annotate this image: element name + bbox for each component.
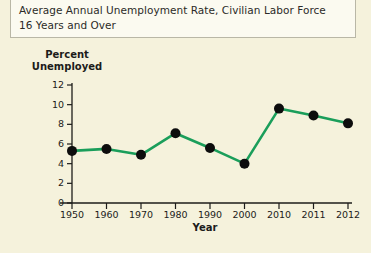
- data-point-marker: [102, 144, 112, 154]
- chart-title-box: Average Annual Unemployment Rate, Civili…: [10, 0, 356, 38]
- line-chart: Percent Unemployed 121086420 19501960197…: [0, 38, 371, 253]
- data-point-marker: [171, 128, 181, 138]
- x-axis-title: Year: [60, 222, 350, 233]
- y-tick-label: 10: [42, 100, 64, 110]
- data-point-marker: [274, 104, 284, 114]
- y-axis-tick-marks: [67, 85, 72, 203]
- data-point-marker: [136, 150, 146, 160]
- chart-title-line-2: 16 Years and Over: [19, 18, 347, 33]
- data-point-marker: [309, 110, 319, 120]
- y-tick-label: 4: [42, 159, 64, 169]
- data-point-marker: [67, 146, 77, 156]
- y-tick-label: 12: [42, 80, 64, 90]
- data-point-marker: [343, 118, 353, 128]
- x-tick-label: 2012: [328, 210, 368, 220]
- y-tick-label: 0: [42, 198, 64, 208]
- data-point-marker: [240, 159, 250, 169]
- y-tick-label: 8: [42, 119, 64, 129]
- data-series-markers: [67, 104, 353, 169]
- data-series-line: [72, 109, 348, 164]
- data-point-marker: [205, 143, 215, 153]
- y-tick-label: 6: [42, 139, 64, 149]
- y-tick-label: 2: [42, 178, 64, 188]
- chart-title-line-1: Average Annual Unemployment Rate, Civili…: [19, 3, 347, 18]
